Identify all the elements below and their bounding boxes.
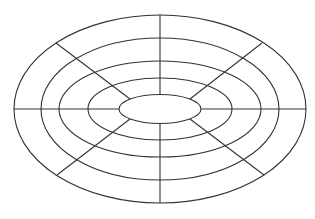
radial-spokes [14, 15, 306, 203]
concentric-ellipse-diagram [0, 0, 315, 219]
ring-5 [119, 95, 201, 124]
spoke-lower-left [57, 119, 130, 175]
spoke-upper-right [190, 43, 262, 99]
